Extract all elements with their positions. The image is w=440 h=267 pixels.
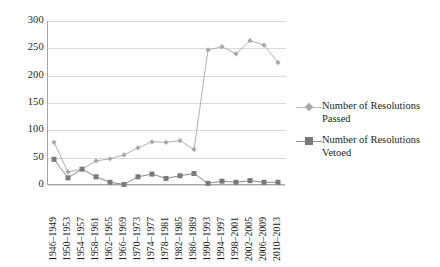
data-point-diamond [177,138,182,143]
data-point-square [80,167,85,172]
legend-label-vetoed-line2: Vetoed [322,147,351,158]
x-axis-tick-labels: 1946–19491950–19531954–19571958–19611962… [47,187,285,263]
legend-label-passed-line1: Number of Resolutions [322,100,420,111]
data-point-square [150,172,155,177]
gridline [48,185,286,186]
data-point-diamond [135,145,140,150]
square-marker-icon [296,136,322,148]
x-tick-label: 1970–1973 [131,187,145,261]
data-point-square [108,180,113,185]
y-tick-label: 200 [0,70,44,80]
legend-label-vetoed-line1: Number of Resolutions [322,134,420,145]
data-point-diamond [51,140,56,145]
data-point-diamond [149,139,154,144]
x-tick-label: 1958–1961 [89,187,103,261]
y-tick-label: 100 [0,124,44,134]
x-tick-label: 1978–1981 [159,187,173,261]
data-point-square [178,173,183,178]
diamond-marker-icon [296,102,322,114]
data-point-diamond [163,140,168,145]
x-tick-label: 2002–2005 [243,187,257,261]
data-point-diamond [219,44,224,49]
data-point-square [262,180,267,185]
data-point-square [94,174,99,179]
legend-label-vetoed: Number of Resolutions Vetoed [322,134,434,159]
x-tick-label: 2006–2009 [257,187,271,261]
data-point-diamond [65,169,70,174]
x-tick-label: 1962–1965 [103,187,117,261]
y-tick-label: 150 [0,97,44,107]
data-point-square [192,171,197,176]
x-tick-label: 1986–1989 [187,187,201,261]
data-point-diamond [121,152,126,157]
series-line [54,41,278,172]
legend-item-vetoed: Number of Resolutions Vetoed [296,134,438,159]
data-point-square [248,178,253,183]
data-point-square [136,174,141,179]
x-tick-label: 1994–1997 [215,187,229,261]
x-tick-label: 1946–1949 [47,187,61,261]
x-tick-label: 1954–1957 [75,187,89,261]
data-point-diamond [93,158,98,163]
data-point-square [206,181,211,186]
x-tick-label: 1998–2001 [229,187,243,261]
data-point-diamond [205,47,210,52]
y-tick-label: 50 [0,152,44,162]
data-point-diamond [107,156,112,161]
data-point-diamond [191,147,196,152]
x-tick-label: 1974–1977 [145,187,159,261]
data-point-square [220,179,225,184]
y-tick-label: 300 [0,15,44,25]
legend-item-passed: Number of Resolutions Passed [296,100,438,125]
x-tick-label: 1966–1969 [117,187,131,261]
chart-legend: Number of Resolutions Passed Number of R… [296,100,438,168]
data-point-square [234,180,239,185]
data-point-square [66,175,71,180]
series-layer [47,21,285,185]
data-point-square [276,180,281,185]
x-tick-label: 2010–2013 [271,187,285,261]
y-tick-label: 0 [0,179,44,189]
chart-figure: 050100150200250300 1946–19491950–1953195… [0,0,440,267]
x-tick-label: 1982–1985 [173,187,187,261]
legend-label-passed-line2: Passed [322,113,351,124]
x-tick-label: 1950–1953 [61,187,75,261]
legend-label-passed: Number of Resolutions Passed [322,100,434,125]
data-point-square [52,157,57,162]
x-tick-label: 1990–1993 [201,187,215,261]
y-tick-label: 250 [0,42,44,52]
data-point-square [164,176,169,181]
